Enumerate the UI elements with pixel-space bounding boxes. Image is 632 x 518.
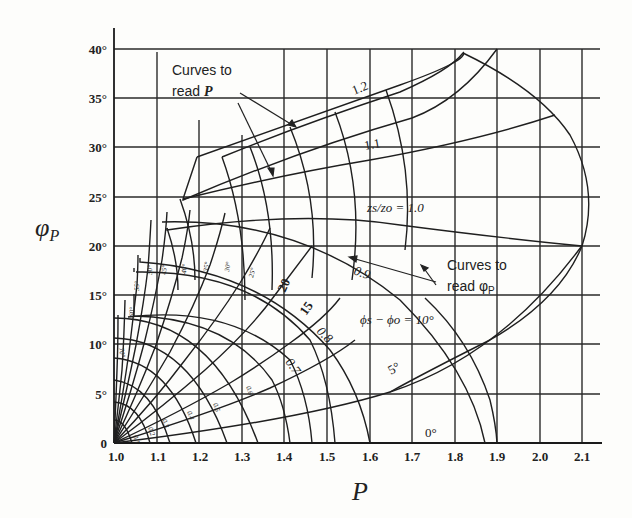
- x-tick: 1.3: [234, 449, 251, 464]
- y-tick: 40°: [89, 42, 107, 57]
- y-tick: 5°: [95, 387, 107, 402]
- x-tick-labels: 1.0 1.1 1.2 1.3 1.4 1.5 1.6 1.7 1.8 1.9 …: [108, 449, 590, 464]
- x-tick: 1.6: [362, 449, 379, 464]
- x-tick: 1.4: [276, 449, 293, 464]
- x-tick: 1.7: [404, 449, 421, 464]
- label-phi-55: 55°: [133, 281, 141, 291]
- annotation-curves-phi-line2: read φP: [447, 278, 495, 296]
- label-phi-15: 15: [296, 298, 316, 318]
- label-phi-35: 35°: [202, 261, 211, 273]
- label-phi-10: ϕs − ϕo = 10°: [360, 312, 434, 327]
- label-phi-40: 40°: [180, 263, 189, 274]
- y-tick: 10°: [89, 337, 107, 352]
- x-tick: 1.1: [150, 449, 166, 464]
- x-tick: 1.5: [319, 449, 336, 464]
- y-tick: 35°: [89, 91, 107, 106]
- y-tick: 15°: [89, 288, 107, 303]
- x-axis-title: P: [351, 477, 368, 506]
- label-zs-zo-1.0: zs/zo = 1.0: [366, 200, 424, 215]
- y-tick: 0: [101, 436, 108, 451]
- x-tick: 1.9: [489, 449, 506, 464]
- label-0.5: 0.5: [211, 402, 222, 413]
- annotation-curves-p-line1: Curves to: [172, 62, 232, 78]
- y-tick-labels: 0 5° 10° 15° 20° 25° 30° 35° 40°: [89, 42, 107, 451]
- smith-style-chart: 0 5° 10° 15° 20° 25° 30° 35° 40° 1.0 1.1…: [0, 0, 632, 518]
- x-tick: 1.0: [108, 449, 124, 464]
- label-phi-50: 50°: [146, 265, 154, 275]
- y-tick: 30°: [89, 140, 107, 155]
- label-phi-45: 45°: [160, 265, 169, 276]
- x-tick: 1.8: [447, 449, 464, 464]
- label-1.1: 1.1: [363, 135, 382, 153]
- label-phi-60: 60°: [128, 307, 136, 317]
- annotation-curves-phi-line1: Curves to: [447, 257, 507, 273]
- y-tick: 25°: [89, 190, 107, 205]
- label-0.7: 0.7: [283, 355, 305, 377]
- x-tick: 1.2: [192, 449, 208, 464]
- x-tick: 2.0: [532, 449, 548, 464]
- label-phi-30: 30°: [223, 261, 233, 273]
- label-phi-5: 5°: [385, 359, 403, 378]
- grid: [114, 49, 600, 443]
- label-phi-0: 0°: [425, 425, 437, 440]
- annotation-curves-p-line2: read P: [172, 83, 213, 99]
- label-phi-25: 25°: [247, 267, 257, 279]
- label-phi-70: 70°: [117, 347, 127, 358]
- x-tick: 2.1: [574, 449, 590, 464]
- label-1.2: 1.2: [350, 78, 371, 98]
- label-0.8: 0.8: [314, 324, 336, 346]
- y-axis-title: φP: [35, 213, 59, 244]
- y-tick: 20°: [89, 239, 107, 254]
